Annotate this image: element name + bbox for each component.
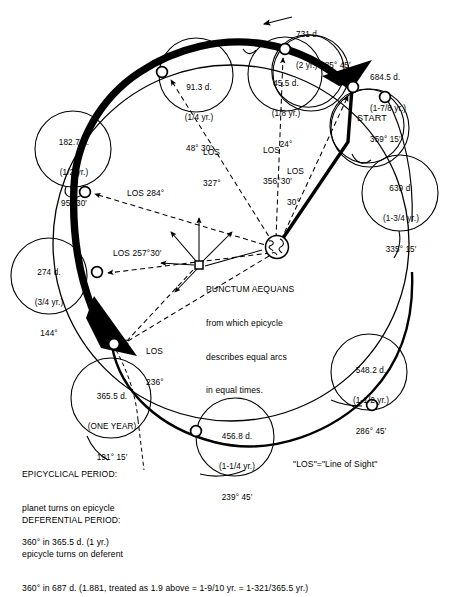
los-327-line2: 327° bbox=[203, 178, 221, 188]
epicycle-91-angle: 48° 30′ bbox=[163, 144, 235, 154]
epicycle-label-639: 639 d. (1-3/4 yr.) 335° 15′ bbox=[364, 163, 438, 276]
epicycle-639-angle: 335° 15′ bbox=[364, 245, 438, 255]
los-label-257: LOS 257°30′ bbox=[113, 248, 161, 258]
epicycle-label-91: 91.3 d. (1/4 yr.) 48° 30′ bbox=[163, 62, 235, 175]
epicycle-639-days: 639 d. bbox=[364, 184, 438, 194]
epicycle-365-years: (ONE YEAR) bbox=[72, 422, 152, 432]
epicycle-731-days: 731 d. bbox=[296, 30, 351, 40]
epicycle-548-angle: 286° 45′ bbox=[333, 427, 409, 437]
epicycle-label-274: 274 d. (3/4 yr.) 144° bbox=[13, 247, 85, 360]
epicycle-274-days: 274 d. bbox=[13, 268, 85, 278]
deferential-period-note: DEFERENTIAL PERIOD: epicycle turns on de… bbox=[22, 492, 308, 597]
punctum-aequans-note: PUNCTUM AEQUANS from which epicycle desc… bbox=[206, 262, 294, 419]
spoke-dl bbox=[175, 269, 197, 292]
start-label: START bbox=[357, 113, 387, 123]
deferential-line2: epicycle turns on deferent bbox=[22, 549, 308, 560]
epicycle-365-days: 365.5 d. bbox=[72, 392, 152, 402]
los-key-note: "LOS"="Line of Sight" bbox=[293, 459, 377, 470]
node-365 bbox=[109, 339, 120, 350]
los-236-line2: 236° bbox=[146, 377, 164, 387]
spoke-ul bbox=[171, 232, 196, 261]
epicycle-label-182: 182.7 d. (1/2 yr.) 95° 30′ bbox=[38, 117, 110, 230]
node-45 bbox=[280, 44, 291, 55]
epicycle-639-years: (1-3/4 yr.) bbox=[364, 214, 438, 224]
epicycle-274-years: (3/4 yr.) bbox=[13, 298, 85, 308]
punctum-line1: PUNCTUM AEQUANS bbox=[206, 284, 294, 295]
callout-731 bbox=[264, 17, 292, 24]
epicycle-548-years: (1-1/2 yr.) bbox=[333, 396, 409, 406]
epicycle-182-angle: 95° 30′ bbox=[38, 199, 110, 209]
epicycle-91-days: 91.3 d. bbox=[163, 83, 235, 93]
los-label-327: LOS 327° bbox=[203, 126, 221, 209]
epicycle-label-684: 684.5 d. (1-7/8 yr.) 359° 15′ bbox=[370, 52, 454, 166]
epicyclical-head: EPICYCLICAL PERIOD: bbox=[22, 469, 117, 480]
epicycle-684-days: 684.5 d. bbox=[370, 73, 454, 83]
epicycle-91-years: (1/4 yr.) bbox=[163, 113, 235, 123]
punctum-line3: describes equal arcs bbox=[206, 352, 294, 363]
los-label-30: LOS 30° bbox=[287, 145, 304, 228]
epicycle-274-angle: 144° bbox=[13, 329, 85, 339]
epicycle-456-days: 456.8 d. bbox=[199, 432, 275, 442]
los-label-284: LOS 284° bbox=[127, 188, 164, 198]
epicycle-45-years: (1/8 yr.) bbox=[250, 109, 322, 119]
epicycle-731-angle: 385° 45′ bbox=[320, 61, 351, 70]
los-30-line2: 30° bbox=[287, 197, 304, 207]
spoke-ur bbox=[203, 232, 232, 261]
node-274 bbox=[92, 267, 103, 278]
epicycle-label-548: 548.2 d. (1-1/2 yr.) 286° 45′ bbox=[333, 345, 409, 458]
epicycle-456-years: (1-1/4 yr.) bbox=[199, 462, 275, 472]
los-label-236: LOS 236° bbox=[146, 325, 164, 408]
epicycle-182-days: 182.7 d. bbox=[38, 138, 110, 148]
deferential-line3: 360° in 687 d. (1.881, treated as 1.9 ab… bbox=[22, 583, 308, 594]
epicycle-548-days: 548.2 d. bbox=[333, 366, 409, 376]
epicycle-182-years: (1/2 yr.) bbox=[38, 168, 110, 178]
los-30-line1: LOS bbox=[287, 166, 304, 176]
epicycle-45-days: 45.5 d. bbox=[250, 79, 322, 89]
los-182-line bbox=[95, 194, 272, 247]
punctum-line2: from which epicycle bbox=[206, 318, 294, 329]
los-236-line1: LOS bbox=[146, 346, 164, 356]
earth-icon bbox=[266, 236, 289, 259]
epicycle-684-angle: 359° 15′ bbox=[370, 135, 454, 145]
los-327-line1: LOS bbox=[203, 147, 221, 157]
punctum-line4: in equal times. bbox=[206, 385, 294, 396]
deferential-head: DEFERENTIAL PERIOD: bbox=[22, 515, 308, 526]
punctum-aequans-point bbox=[195, 261, 203, 269]
